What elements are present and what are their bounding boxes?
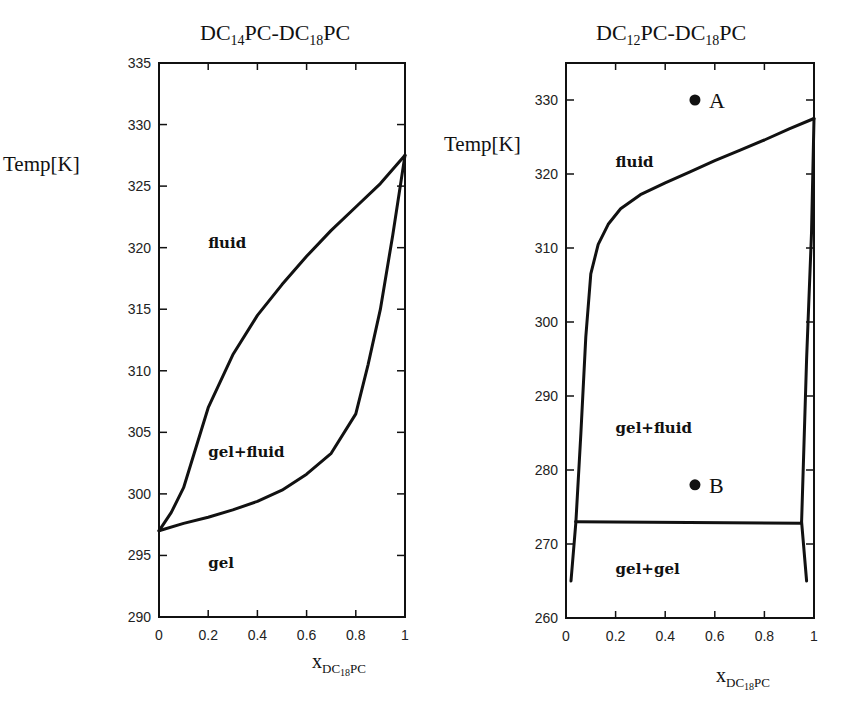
phase-boundary-curve — [159, 155, 405, 531]
x-tick-label: 0 — [562, 628, 570, 644]
region-label: fluid — [208, 234, 247, 252]
y-tick-label: 335 — [128, 55, 152, 71]
y-tick-label: 330 — [128, 117, 152, 133]
y-tick-label: 315 — [128, 301, 152, 317]
x-tick-label: 0.6 — [705, 628, 725, 644]
chart-right: DC12PC-DC18PC Temp[K] 260270280290300310… — [444, 20, 818, 692]
chart-right-curves — [571, 119, 814, 582]
chart-right-points: AB — [689, 88, 725, 498]
state-point-marker — [689, 479, 700, 490]
chart-left-ylabel: Temp[K] — [3, 152, 80, 176]
region-label: gel+fluid — [616, 419, 693, 437]
x-tick-label: 1 — [810, 628, 818, 644]
y-tick-label: 295 — [128, 547, 152, 563]
phase-diagrams: DC14PC-DC18PC Temp[K] 290295300305310315… — [0, 0, 849, 723]
chart-right-region-labels: fluidgel+fluidgel+gel — [616, 153, 693, 578]
chart-left-frame — [159, 63, 405, 617]
chart-left: DC14PC-DC18PC Temp[K] 290295300305310315… — [3, 20, 409, 678]
y-tick-label: 270 — [535, 536, 559, 552]
phase-boundary-curve — [802, 119, 814, 522]
y-tick-label: 290 — [128, 609, 152, 625]
region-label: fluid — [616, 153, 655, 171]
phase-boundary-curve — [159, 155, 405, 531]
x-tick-label: 1 — [401, 627, 409, 643]
y-tick-label: 300 — [128, 486, 152, 502]
chart-right-xlabel: xDC18PC — [716, 664, 770, 692]
y-tick-label: 260 — [535, 610, 559, 626]
phase-boundary-curve — [802, 522, 807, 581]
region-label: gel+fluid — [208, 443, 285, 461]
chart-left-region-labels: fluidgel+fluidgel — [208, 234, 285, 572]
x-tick-label: 0.8 — [755, 628, 775, 644]
chart-left-xlabel: xDC18PC — [312, 650, 366, 678]
chart-right-x-ticks: 00.20.40.60.81 — [562, 63, 818, 644]
chart-right-frame — [566, 63, 814, 618]
state-point-label: B — [709, 473, 724, 498]
y-tick-label: 305 — [128, 424, 152, 440]
x-tick-label: 0.2 — [606, 628, 626, 644]
chart-right-y-ticks: 260270280290300310320330 — [535, 92, 814, 626]
chart-right-title: DC12PC-DC18PC — [596, 20, 746, 48]
y-tick-label: 280 — [535, 462, 559, 478]
y-tick-label: 325 — [128, 178, 152, 194]
state-point-marker — [689, 95, 700, 106]
chart-left-y-ticks: 290295300305310315320325330335 — [128, 55, 405, 625]
y-tick-label: 310 — [535, 240, 559, 256]
x-tick-label: 0 — [155, 627, 163, 643]
phase-boundary-curve — [571, 522, 576, 581]
phase-boundary-curve — [576, 119, 814, 522]
x-tick-label: 0.6 — [297, 627, 317, 643]
y-tick-label: 300 — [535, 314, 559, 330]
y-tick-label: 310 — [128, 363, 152, 379]
y-tick-label: 320 — [535, 166, 559, 182]
chart-right-ylabel: Temp[K] — [444, 132, 521, 156]
y-tick-label: 290 — [535, 388, 559, 404]
y-tick-label: 330 — [535, 92, 559, 108]
phase-boundary-curve — [576, 522, 802, 524]
x-tick-label: 0.8 — [346, 627, 366, 643]
region-label: gel — [208, 554, 234, 572]
chart-left-title: DC14PC-DC18PC — [200, 20, 350, 48]
state-point-label: A — [709, 88, 725, 113]
x-tick-label: 0.2 — [198, 627, 218, 643]
region-label: gel+gel — [616, 560, 680, 578]
chart-left-curves — [159, 155, 405, 531]
x-tick-label: 0.4 — [655, 628, 675, 644]
y-tick-label: 320 — [128, 240, 152, 256]
x-tick-label: 0.4 — [248, 627, 268, 643]
